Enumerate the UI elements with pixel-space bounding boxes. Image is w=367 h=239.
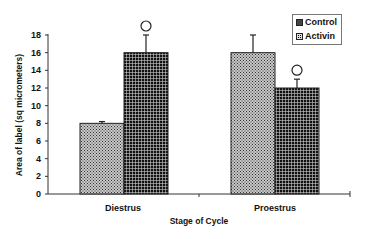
y-tick-label: 16 [31, 48, 41, 58]
category-label-diestrus: Diestrus [105, 203, 141, 213]
control-swatch-icon [296, 19, 303, 26]
significance-marker-icon [292, 65, 302, 75]
y-tick-label: 12 [31, 83, 41, 93]
bar-control-proestrus [231, 53, 275, 194]
legend-label-activin: Activin [305, 31, 335, 41]
y-axis: 024681012141618 [31, 30, 48, 199]
y-tick-label: 8 [36, 118, 41, 128]
legend-item-activin: Activin [293, 29, 341, 43]
legend: Control Activin [292, 14, 342, 45]
bar-activin-proestrus [275, 88, 319, 194]
y-tick-label: 4 [36, 154, 41, 164]
bars [80, 21, 319, 194]
y-tick-label: 18 [31, 30, 41, 40]
bar-control-diestrus [80, 123, 124, 194]
legend-item-control: Control [293, 15, 341, 29]
legend-label-control: Control [305, 17, 337, 27]
significance-marker-icon [141, 21, 151, 31]
y-axis-title: Area of label (sq micrometers) [14, 54, 24, 177]
y-tick-label: 14 [31, 65, 41, 75]
y-tick-label: 6 [36, 136, 41, 146]
y-tick-label: 10 [31, 101, 41, 111]
y-tick-label: 0 [36, 189, 41, 199]
bar-activin-diestrus [124, 53, 168, 194]
category-label-proestrus: Proestrus [254, 203, 296, 213]
x-axis-title: Stage of Cycle [170, 216, 229, 226]
y-tick-label: 2 [36, 171, 41, 181]
activin-swatch-icon [296, 33, 303, 40]
